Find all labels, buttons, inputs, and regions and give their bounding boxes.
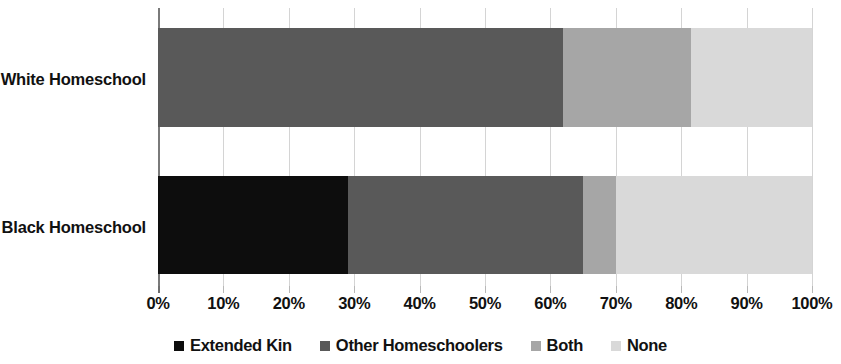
x-axis-tick-mark	[747, 286, 748, 293]
x-axis-tick-mark	[681, 286, 682, 293]
bar-segment	[616, 176, 812, 274]
legend-swatch-icon	[174, 341, 184, 351]
legend: Extended KinOther HomeschoolersBothNone	[0, 336, 841, 355]
x-axis-tick-label: 10%	[207, 294, 239, 313]
bar-segment	[563, 28, 691, 127]
category-label-white-homeschool: White Homeschool	[1, 70, 146, 89]
x-axis: 0%10%20%30%40%50%60%70%80%90%100%	[158, 286, 812, 316]
x-axis-tick-label: 0%	[146, 294, 169, 313]
x-axis-tick-label: 30%	[338, 294, 370, 313]
x-axis-tick-mark	[158, 286, 160, 293]
category-axis: White Homeschool Black Homeschool	[0, 0, 158, 286]
bar-segment	[348, 176, 583, 274]
stacked-bar-chart: White Homeschool Black Homeschool 0%10%2…	[0, 0, 841, 364]
x-axis-tick-label: 40%	[404, 294, 436, 313]
bar-segment	[158, 28, 563, 127]
x-axis-tick-label: 20%	[273, 294, 305, 313]
plot-area	[158, 8, 812, 286]
bar-row	[158, 176, 812, 274]
legend-swatch-icon	[531, 341, 541, 351]
legend-item[interactable]: Other Homeschoolers	[320, 336, 503, 355]
x-axis-tick-label: 80%	[665, 294, 697, 313]
x-axis-tick-label: 70%	[600, 294, 632, 313]
x-axis-tick-mark	[354, 286, 355, 293]
bar-row	[158, 28, 812, 127]
legend-label: None	[627, 336, 667, 355]
x-axis-tick-mark	[485, 286, 486, 293]
bar-segment	[583, 176, 616, 274]
x-axis-tick-label: 60%	[534, 294, 566, 313]
bar-segment	[691, 28, 812, 127]
x-axis-tick-label: 50%	[469, 294, 501, 313]
x-axis-tick-mark	[616, 286, 617, 293]
legend-swatch-icon	[611, 341, 621, 351]
legend-label: Extended Kin	[190, 336, 292, 355]
x-axis-tick-label: 100%	[791, 294, 832, 313]
legend-label: Both	[547, 336, 583, 355]
legend-item[interactable]: Extended Kin	[174, 336, 292, 355]
legend-item[interactable]: Both	[531, 336, 583, 355]
x-axis-tick-mark	[420, 286, 421, 293]
bar-segment	[158, 176, 348, 274]
legend-item[interactable]: None	[611, 336, 667, 355]
legend-label: Other Homeschoolers	[336, 336, 503, 355]
category-label-black-homeschool: Black Homeschool	[2, 218, 146, 237]
x-axis-tick-label: 90%	[731, 294, 763, 313]
gridline	[812, 8, 813, 286]
x-axis-tick-mark	[550, 286, 551, 293]
legend-swatch-icon	[320, 341, 330, 351]
x-axis-tick-mark	[223, 286, 224, 293]
x-axis-tick-mark	[812, 286, 813, 293]
x-axis-tick-mark	[289, 286, 290, 293]
